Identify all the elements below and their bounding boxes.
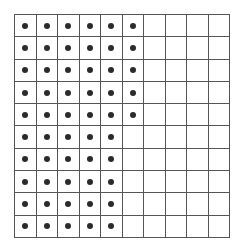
grid-cell bbox=[100, 59, 122, 81]
grid-cell bbox=[79, 125, 101, 147]
grid-cell bbox=[79, 215, 101, 237]
grid-cell bbox=[122, 170, 144, 192]
dot-icon bbox=[108, 223, 114, 229]
grid-cell bbox=[186, 148, 208, 170]
grid-cell bbox=[36, 192, 58, 214]
grid-cell bbox=[100, 125, 122, 147]
grid-cell bbox=[208, 59, 230, 81]
grid-cell bbox=[100, 103, 122, 125]
grid-cell bbox=[208, 192, 230, 214]
grid-cell bbox=[208, 170, 230, 192]
dot-icon bbox=[108, 156, 114, 162]
dot-icon bbox=[22, 179, 28, 185]
grid-cell bbox=[36, 125, 58, 147]
dot-icon bbox=[108, 45, 114, 51]
grid-cell bbox=[143, 81, 165, 103]
grid-cell bbox=[57, 14, 79, 36]
grid-cell bbox=[79, 148, 101, 170]
grid-cell bbox=[79, 36, 101, 58]
grid-cell bbox=[165, 192, 187, 214]
dot-icon bbox=[87, 156, 93, 162]
grid-cell bbox=[208, 36, 230, 58]
dot-icon bbox=[22, 67, 28, 73]
grid-cell bbox=[100, 81, 122, 103]
grid-cell bbox=[165, 81, 187, 103]
grid-cell bbox=[143, 14, 165, 36]
grid-cell bbox=[143, 148, 165, 170]
grid-cell bbox=[100, 148, 122, 170]
dot-icon bbox=[108, 67, 114, 73]
dot-icon bbox=[87, 134, 93, 140]
grid-cell bbox=[165, 103, 187, 125]
grid-cell bbox=[186, 125, 208, 147]
grid-cell bbox=[100, 14, 122, 36]
grid-cell bbox=[100, 36, 122, 58]
dot-icon bbox=[22, 112, 28, 118]
grid-cell bbox=[14, 125, 36, 147]
dot-icon bbox=[130, 67, 136, 73]
dot-icon bbox=[87, 90, 93, 96]
dot-icon bbox=[22, 45, 28, 51]
grid-cell bbox=[165, 148, 187, 170]
grid-cell bbox=[165, 14, 187, 36]
dot-icon bbox=[108, 134, 114, 140]
grid-cell bbox=[143, 59, 165, 81]
dot-icon bbox=[65, 23, 71, 29]
grid-cell bbox=[57, 81, 79, 103]
dot-icon bbox=[44, 23, 50, 29]
grid-cell bbox=[186, 14, 208, 36]
grid-cell bbox=[57, 192, 79, 214]
dot-icon bbox=[44, 223, 50, 229]
grid-cell bbox=[143, 125, 165, 147]
dot-icon bbox=[44, 45, 50, 51]
dot-icon bbox=[65, 201, 71, 207]
grid-cell bbox=[14, 192, 36, 214]
dot-icon bbox=[22, 134, 28, 140]
grid-cell bbox=[122, 59, 144, 81]
grid-cell bbox=[57, 215, 79, 237]
grid-cell bbox=[100, 170, 122, 192]
grid-cell bbox=[122, 103, 144, 125]
grid-cell bbox=[36, 14, 58, 36]
dot-icon bbox=[44, 112, 50, 118]
grid-cell bbox=[14, 81, 36, 103]
grid-cell bbox=[57, 36, 79, 58]
hundred-grid bbox=[14, 14, 230, 238]
grid-cell bbox=[14, 148, 36, 170]
dot-icon bbox=[108, 90, 114, 96]
grid-cell bbox=[79, 103, 101, 125]
grid-cell bbox=[186, 103, 208, 125]
dot-icon bbox=[130, 23, 136, 29]
grid-cell bbox=[165, 170, 187, 192]
grid-cell bbox=[208, 125, 230, 147]
grid-cell bbox=[186, 192, 208, 214]
dot-icon bbox=[65, 134, 71, 140]
grid-cell bbox=[208, 215, 230, 237]
grid-cell bbox=[14, 36, 36, 58]
dot-icon bbox=[44, 90, 50, 96]
dot-icon bbox=[87, 23, 93, 29]
grid-cell bbox=[57, 148, 79, 170]
dot-icon bbox=[130, 90, 136, 96]
dot-icon bbox=[108, 179, 114, 185]
grid-cell bbox=[14, 59, 36, 81]
grid-cell bbox=[14, 170, 36, 192]
grid-cell bbox=[186, 59, 208, 81]
grid-cell bbox=[57, 59, 79, 81]
dot-icon bbox=[130, 45, 136, 51]
dot-icon bbox=[65, 112, 71, 118]
dot-icon bbox=[65, 223, 71, 229]
grid-cell bbox=[122, 125, 144, 147]
grid-cell bbox=[36, 59, 58, 81]
grid-cell bbox=[36, 170, 58, 192]
grid-cell bbox=[143, 36, 165, 58]
dot-icon bbox=[22, 156, 28, 162]
grid-cell bbox=[122, 81, 144, 103]
grid-cell bbox=[208, 148, 230, 170]
dot-icon bbox=[87, 223, 93, 229]
grid-cell bbox=[186, 36, 208, 58]
dot-icon bbox=[108, 201, 114, 207]
grid-cell bbox=[165, 59, 187, 81]
grid-cell bbox=[100, 215, 122, 237]
grid-cell bbox=[186, 170, 208, 192]
